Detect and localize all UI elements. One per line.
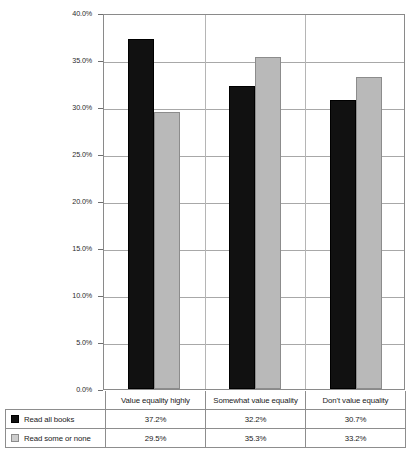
- plot-region: 0.0%5.0%10.0%15.0%20.0%25.0%30.0%35.0%40…: [0, 0, 413, 398]
- data-table: Value equality highly Somewhat value equ…: [5, 391, 406, 448]
- bar-somewhat-value-equality-series-1: [255, 57, 281, 389]
- table-header-row: Value equality highly Somewhat value equ…: [6, 391, 406, 410]
- value-cell-r0-c0: 37.2%: [106, 410, 206, 429]
- bar-don-t-value-equality-series-1: [356, 77, 382, 389]
- black-square-icon: [11, 415, 19, 423]
- y-axis-tick-label: 10.0%: [0, 292, 92, 299]
- bar-value-equality-highly-series-1: [154, 112, 180, 389]
- y-axis-tick-label: 40.0%: [0, 10, 92, 17]
- y-axis-tick-labels: 0.0%5.0%10.0%15.0%20.0%25.0%30.0%35.0%40…: [0, 0, 92, 398]
- gray-square-icon: [11, 434, 19, 442]
- legend-label-1: Read some or none: [24, 434, 91, 443]
- y-axis-tick-label: 15.0%: [0, 245, 92, 252]
- y-axis-tick-label: 20.0%: [0, 198, 92, 205]
- legend-cell-read-all-books: Read all books: [6, 410, 106, 429]
- bar-value-equality-highly-series-0: [128, 39, 154, 389]
- bar-chart-figure: 0.0%5.0%10.0%15.0%20.0%25.0%30.0%35.0%40…: [0, 0, 413, 461]
- group-separator: [205, 15, 206, 389]
- table-corner-cell: [6, 391, 106, 410]
- y-axis-tick-label: 35.0%: [0, 57, 92, 64]
- value-cell-r0-c1: 32.2%: [206, 410, 306, 429]
- plot-area: [103, 14, 405, 390]
- column-header-1: Somewhat value equality: [206, 391, 306, 410]
- column-header-0: Value equality highly: [106, 391, 206, 410]
- bar-somewhat-value-equality-series-0: [229, 86, 255, 389]
- legend-label-0: Read all books: [24, 415, 74, 424]
- table-row: Read some or none 29.5% 35.3% 33.2%: [6, 429, 406, 448]
- y-axis-tick-label: 30.0%: [0, 104, 92, 111]
- y-axis-tick-label: 25.0%: [0, 151, 92, 158]
- group-separator: [305, 15, 306, 389]
- value-cell-r1-c0: 29.5%: [106, 429, 206, 448]
- value-cell-r1-c1: 35.3%: [206, 429, 306, 448]
- column-header-2: Don't value equality: [306, 391, 406, 410]
- table-row: Read all books 37.2% 32.2% 30.7%: [6, 410, 406, 429]
- y-axis-tick-label: 5.0%: [0, 339, 92, 346]
- value-cell-r1-c2: 33.2%: [306, 429, 406, 448]
- value-cell-r0-c2: 30.7%: [306, 410, 406, 429]
- bar-don-t-value-equality-series-0: [330, 100, 356, 389]
- legend-cell-read-some-or-none: Read some or none: [6, 429, 106, 448]
